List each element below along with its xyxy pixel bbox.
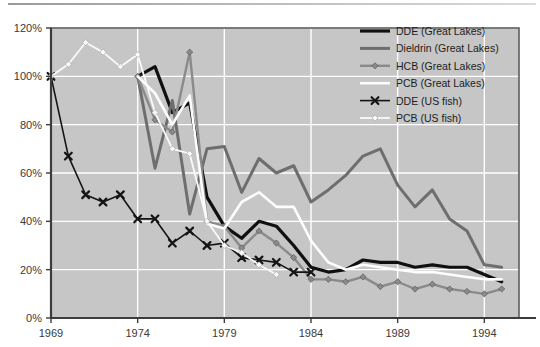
x-axis: 196919741979198419891994 [39,318,497,339]
x-axis-tick-label: 1969 [39,327,63,339]
y-axis: 0%20%40%60%80%100%120% [14,22,51,324]
x-axis-tick-label: 1979 [212,327,236,339]
y-axis-tick-label: 0% [26,312,42,324]
y-axis-tick-label: 20% [20,264,42,276]
y-axis-tick-label: 60% [20,167,42,179]
legend-item-label: HCB (Great Lakes) [396,60,485,72]
chart-figure: 0%20%40%60%80%100%120%196919741979198419… [0,0,540,347]
line-chart-canvas: 0%20%40%60%80%100%120%196919741979198419… [0,0,540,347]
y-axis-tick-label: 80% [20,119,42,131]
x-axis-tick-label: 1974 [125,327,149,339]
x-axis-tick-label: 1989 [385,327,409,339]
legend-item-label: PCB (US fish) [396,112,461,124]
legend-item-label: Dieldrin (Great Lakes) [396,42,499,54]
x-axis-tick-label: 1994 [472,327,496,339]
legend-item-label: PCB (Great Lakes) [396,77,485,89]
legend-item-label: DDE (Great Lakes) [396,25,485,37]
x-axis-tick-label: 1984 [299,327,323,339]
legend-item-label: DDE (US fish) [396,95,462,107]
y-axis-tick-label: 40% [20,215,42,227]
y-axis-tick-label: 100% [14,70,42,82]
y-axis-tick-label: 120% [14,22,42,34]
